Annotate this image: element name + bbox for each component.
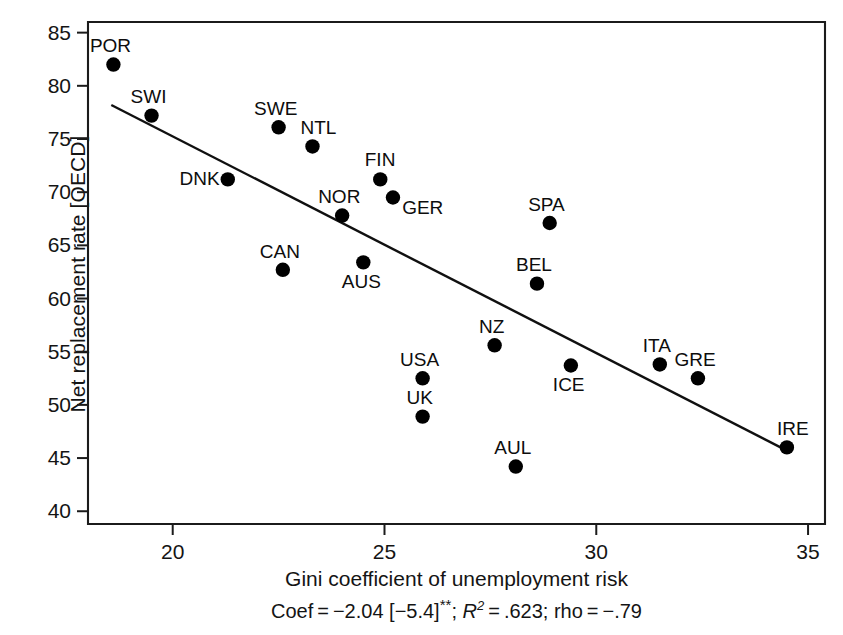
data-point-marker [530, 276, 544, 290]
data-point-label: IRE [777, 419, 809, 438]
plot-frame [88, 22, 825, 524]
data-point-marker [691, 371, 705, 385]
data-point-label: BEL [516, 255, 552, 274]
data-point-label: AUS [342, 272, 381, 291]
data-point-label: POR [90, 36, 131, 55]
data-point-marker [415, 409, 429, 423]
stats-caption: Coef = −2.04 [−5.4]**; R2 = .623; rho = … [88, 596, 825, 623]
data-point-marker [542, 216, 556, 230]
x-axis-title: Gini coefficient of unemployment risk [88, 567, 825, 591]
data-point-marker [386, 190, 400, 204]
data-point-marker [305, 139, 319, 153]
data-point-label: SWE [254, 99, 297, 118]
y-tick-label: 65 [27, 234, 71, 255]
data-point-label: USA [400, 350, 439, 369]
data-point-marker [415, 371, 429, 385]
y-tick-label: 55 [27, 341, 71, 362]
data-point-label: SWI [131, 87, 167, 106]
data-point-label: FIN [365, 150, 396, 169]
data-point-marker [144, 108, 158, 122]
data-point-label: UK [407, 388, 433, 407]
data-point-marker [487, 338, 501, 352]
x-tick-label: 35 [783, 541, 833, 562]
axis-ticks [77, 33, 808, 535]
y-tick-label: 70 [27, 181, 71, 202]
y-tick-label: 85 [27, 22, 71, 43]
data-point-label: NOR [318, 187, 360, 206]
data-point-marker [564, 358, 578, 372]
data-point-marker [780, 440, 794, 454]
data-points [106, 57, 794, 473]
data-point-label: CAN [260, 242, 300, 261]
y-tick-label: 75 [27, 128, 71, 149]
plot-canvas [0, 0, 843, 635]
y-tick-label: 50 [27, 394, 71, 415]
data-point-marker [221, 172, 235, 186]
data-point-marker [276, 263, 290, 277]
data-point-label: AUL [494, 438, 531, 457]
data-point-marker [106, 57, 120, 71]
data-point-marker [509, 459, 523, 473]
data-point-marker [356, 255, 370, 269]
x-tick-label: 30 [571, 541, 621, 562]
y-tick-label: 60 [27, 288, 71, 309]
scatter-plot-figure: Net replacement rate [OECD] 404550556065… [0, 0, 843, 635]
data-point-label: GER [402, 198, 443, 217]
data-point-marker [335, 208, 349, 222]
x-tick-label: 20 [148, 541, 198, 562]
data-point-label: DNK [180, 169, 220, 188]
data-point-marker [271, 120, 285, 134]
y-tick-label: 40 [27, 500, 71, 521]
data-point-label: NZ [479, 317, 504, 336]
data-point-label: NTL [300, 118, 336, 137]
data-point-label: SPA [528, 195, 565, 214]
y-tick-label: 45 [27, 447, 71, 468]
data-point-marker [373, 172, 387, 186]
y-tick-label: 80 [27, 75, 71, 96]
data-point-label: GRE [674, 350, 715, 369]
data-point-marker [653, 357, 667, 371]
regression-line [111, 105, 787, 451]
data-point-label: ITA [643, 336, 671, 355]
x-tick-label: 25 [359, 541, 409, 562]
data-point-label: ICE [553, 375, 585, 394]
